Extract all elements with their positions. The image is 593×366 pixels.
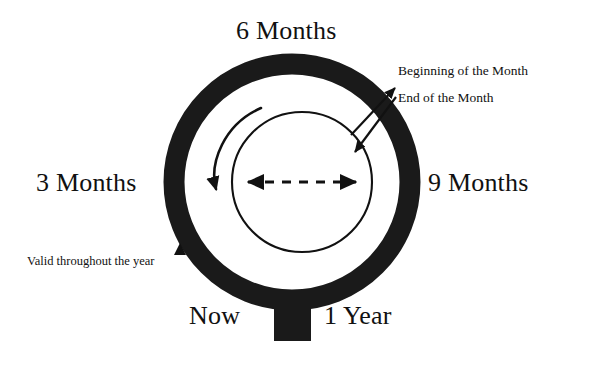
label-6-months: 6 Months [236, 18, 337, 44]
annotation-valid-throughout-the-year: Valid throughout the year [27, 255, 154, 268]
annotation-end-of-month: End of the Month [398, 91, 494, 105]
annotation-beginning-of-month: Beginning of the Month [398, 64, 528, 78]
timeline-wheel-diagram: 6 Months 3 Months 9 Months Now 1 Year Be… [0, 0, 593, 366]
label-now: Now [189, 303, 240, 329]
label-9-months: 9 Months [428, 170, 529, 196]
label-3-months: 3 Months [36, 170, 137, 196]
annual-ring [174, 64, 410, 300]
label-1-year: 1 Year [324, 303, 392, 329]
start-square-marker [274, 297, 311, 341]
counterclockwise-arrow-icon [214, 108, 261, 189]
